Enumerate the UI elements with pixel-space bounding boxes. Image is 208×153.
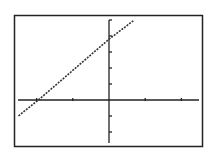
calculator-graph (0, 0, 208, 153)
